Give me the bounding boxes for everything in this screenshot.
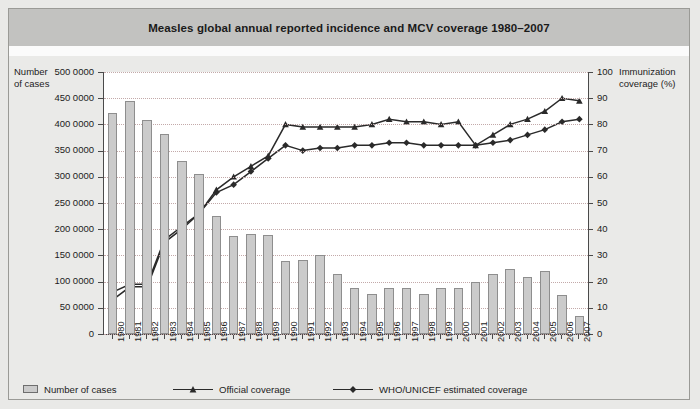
- x-tick-mark: [215, 335, 216, 339]
- y-axis-title-line2: of cases: [14, 78, 76, 90]
- x-tick-mark: [319, 335, 320, 339]
- x-tick-label-2003: 2003: [513, 321, 523, 342]
- bar-1983: [160, 134, 170, 334]
- chart-title-band: Measles global annual reported incidence…: [9, 9, 689, 46]
- diamond-marker-2003: [507, 137, 514, 144]
- legend: Number of casesOfficial coverageWHO/UNIC…: [9, 379, 689, 399]
- legend-item-2[interactable]: Official coverage: [173, 384, 290, 395]
- y-tick-mark: [98, 282, 103, 283]
- x-tick-label-2002: 2002: [496, 321, 506, 342]
- legend-label: WHO/UNICEF estimated coverage: [379, 384, 527, 395]
- legend-label: Number of cases: [44, 384, 117, 395]
- y2-tick-mark: [588, 151, 593, 152]
- x-tick-label-1999: 1999: [444, 321, 454, 342]
- x-tick-mark: [146, 335, 147, 339]
- x-tick-label-2000: 2000: [461, 321, 471, 342]
- x-tick-label-2007: 2007: [582, 321, 592, 342]
- diamond-marker-2007: [576, 116, 583, 123]
- x-tick-mark: [423, 335, 424, 339]
- bar-1982: [142, 120, 152, 334]
- diamond-marker-1996: [386, 139, 393, 146]
- x-tick-label-1996: 1996: [392, 321, 402, 342]
- y-tick-mark: [98, 151, 103, 152]
- triangle-marker-1988: [248, 163, 255, 169]
- y2-tick-mark: [588, 124, 593, 125]
- x-tick-label-1987: 1987: [237, 321, 247, 342]
- y-tick-label: 0: [89, 328, 94, 339]
- y-tick-label: 200 0000: [54, 223, 94, 234]
- y2-tick-label: 60: [597, 170, 608, 181]
- x-tick-label-2005: 2005: [548, 321, 558, 342]
- x-tick-mark: [527, 335, 528, 339]
- x-tick-label-1982: 1982: [150, 321, 160, 342]
- bar-1987: [229, 236, 239, 335]
- bar-swatch-icon: [23, 385, 38, 393]
- bar-1988: [246, 234, 256, 334]
- x-tick-label-2006: 2006: [565, 321, 575, 342]
- diamond-marker-2005: [541, 126, 548, 133]
- x-tick-label-1983: 1983: [168, 321, 178, 342]
- diamond-marker-icon: [333, 385, 373, 394]
- y-tick-mark: [98, 203, 103, 204]
- triangle-marker-2002: [490, 132, 497, 138]
- legend-label: Official coverage: [219, 384, 290, 395]
- y2-tick-mark: [588, 308, 593, 309]
- page-title: Measles global annual reported incidence…: [148, 22, 550, 34]
- y-tick-label: 100 0000: [54, 275, 94, 286]
- x-tick-label-1989: 1989: [271, 321, 281, 342]
- x-tick-mark: [112, 335, 113, 339]
- x-tick-label-1985: 1985: [202, 321, 212, 342]
- x-tick-mark: [354, 335, 355, 339]
- x-tick-label-1991: 1991: [306, 321, 316, 342]
- y-tick-mark: [98, 308, 103, 309]
- diamond-marker-1995: [369, 142, 376, 149]
- x-tick-label-2004: 2004: [531, 321, 541, 342]
- y2-tick-label: 100: [597, 66, 613, 77]
- x-tick-mark: [181, 335, 182, 339]
- bar-1984: [177, 161, 187, 334]
- gridline: [104, 98, 588, 99]
- bar-1980: [108, 113, 118, 334]
- x-tick-mark: [233, 335, 234, 339]
- x-tick-label-1997: 1997: [410, 321, 420, 342]
- legend-item-3[interactable]: WHO/UNICEF estimated coverage: [333, 384, 527, 395]
- y-tick-mark: [98, 98, 103, 99]
- x-tick-label-1993: 1993: [340, 321, 350, 342]
- x-tick-mark: [164, 335, 165, 339]
- x-tick-mark: [267, 335, 268, 339]
- bar-1986: [212, 216, 222, 334]
- y2-tick-mark: [588, 177, 593, 178]
- legend-item-1[interactable]: Number of cases: [23, 384, 117, 395]
- y-tick-mark: [98, 72, 103, 73]
- triangle-marker-icon: [173, 385, 213, 394]
- y2-tick-mark: [588, 282, 593, 283]
- y-tick-mark: [98, 124, 103, 125]
- y2-axis-title: Immunization coverage (%): [619, 66, 693, 89]
- y2-tick-label: 70: [597, 144, 608, 155]
- diamond-marker-1997: [403, 139, 410, 146]
- diamond-marker-2000: [455, 142, 462, 149]
- y-tick-mark: [98, 177, 103, 178]
- y2-tick-label: 90: [597, 92, 608, 103]
- x-tick-label-2001: 2001: [479, 321, 489, 342]
- x-tick-mark: [302, 335, 303, 339]
- x-tick-label-1986: 1986: [219, 321, 229, 342]
- x-tick-mark: [544, 335, 545, 339]
- x-tick-label-1998: 1998: [427, 321, 437, 342]
- y-tick-mark: [98, 255, 103, 256]
- y2-axis-title-line1: Immunization: [619, 66, 693, 78]
- x-tick-mark: [198, 335, 199, 339]
- diamond-marker-2002: [490, 139, 497, 146]
- y2-tick-mark: [588, 98, 593, 99]
- y2-tick-label: 20: [597, 275, 608, 286]
- x-tick-mark: [475, 335, 476, 339]
- bar-1989: [263, 235, 273, 334]
- diamond-marker-1994: [351, 142, 358, 149]
- y-tick-label: 400 0000: [54, 118, 94, 129]
- x-tick-mark: [457, 335, 458, 339]
- x-tick-mark: [406, 335, 407, 339]
- x-tick-label-1980: 1980: [116, 321, 126, 342]
- y-tick-label: 250 0000: [54, 197, 94, 208]
- y-tick-label: 300 0000: [54, 170, 94, 181]
- y2-tick-mark: [588, 72, 593, 73]
